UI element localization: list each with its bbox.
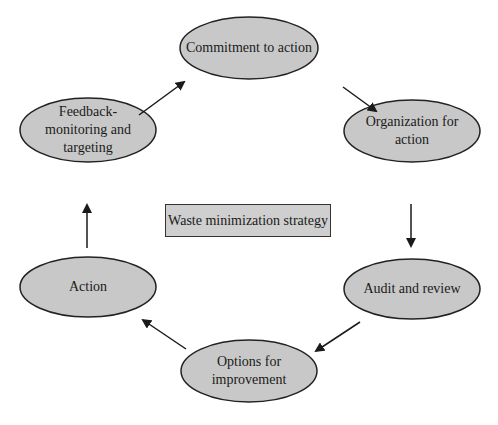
node-options <box>181 340 317 402</box>
center-title-box: Waste minimization strategy <box>165 204 331 237</box>
arrow-options-to-action <box>143 320 186 349</box>
node-audit <box>344 259 480 319</box>
node-feedback <box>20 98 156 162</box>
arrow-feedback-to-commitment <box>139 82 184 115</box>
arrow-commitment-to-organization <box>343 87 376 111</box>
arrow-audit-to-options <box>316 322 360 351</box>
node-organization <box>344 100 480 162</box>
center-title: Waste minimization strategy <box>168 213 328 229</box>
node-action <box>20 257 156 317</box>
node-commitment <box>180 17 318 79</box>
